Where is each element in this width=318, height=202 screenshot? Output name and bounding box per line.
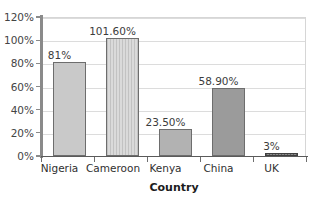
bar-value-label-kenya: 23.50% bbox=[139, 117, 192, 128]
bar-kenya bbox=[159, 129, 192, 156]
y-tick-40 bbox=[36, 109, 41, 110]
gridline-100 bbox=[42, 41, 305, 42]
y-tick-label-0: 0% bbox=[0, 151, 34, 162]
x-axis-title: Country bbox=[42, 181, 306, 194]
x-tick-4 bbox=[253, 157, 254, 162]
bar-chart: 0% 20% 40% 60% 80% 100% 120% 81% 101.60%… bbox=[0, 0, 318, 202]
bar-nigeria bbox=[53, 62, 86, 156]
bar-cameroon bbox=[106, 38, 139, 156]
y-tick-label-40: 40% bbox=[0, 105, 34, 116]
y-tick-label-120: 120% bbox=[0, 12, 34, 23]
y-tick-label-80: 80% bbox=[0, 58, 34, 69]
x-category-label-cameroon: Cameroon bbox=[86, 163, 139, 174]
bar-value-label-cameroon: 101.60% bbox=[86, 26, 139, 37]
y-tick-60 bbox=[36, 86, 41, 87]
x-category-label-china: China bbox=[192, 163, 245, 174]
bar-china bbox=[212, 88, 245, 156]
x-tick-3 bbox=[200, 157, 201, 162]
y-tick-100 bbox=[36, 40, 41, 41]
bar-value-label-china: 58.90% bbox=[192, 76, 245, 87]
y-tick-80 bbox=[36, 63, 41, 64]
gridline-120 bbox=[42, 18, 305, 19]
x-axis-line bbox=[40, 156, 308, 158]
y-tick-120 bbox=[36, 16, 41, 17]
y-tick-20 bbox=[36, 132, 41, 133]
x-tick-5 bbox=[306, 157, 307, 162]
x-category-label-uk: UK bbox=[245, 163, 298, 174]
x-tick-2 bbox=[147, 157, 148, 162]
bar-value-label-nigeria: 81% bbox=[33, 50, 86, 61]
plot-area bbox=[42, 17, 306, 156]
y-tick-label-100: 100% bbox=[0, 35, 34, 46]
y-tick-label-60: 60% bbox=[0, 82, 34, 93]
x-category-label-nigeria: Nigeria bbox=[33, 163, 86, 174]
y-tick-label-20: 20% bbox=[0, 128, 34, 139]
bar-value-label-uk: 3% bbox=[245, 141, 298, 152]
x-category-label-kenya: Kenya bbox=[139, 163, 192, 174]
